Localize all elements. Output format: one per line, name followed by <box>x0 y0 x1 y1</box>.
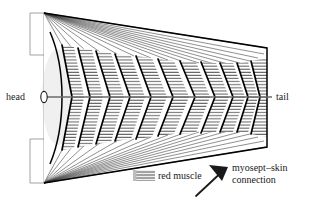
figure-canvas: head tail red muscle myosept–skin connec… <box>0 0 315 207</box>
ellipse-marker-icon <box>41 91 47 102</box>
legend-label-red-muscle: red muscle <box>158 170 202 182</box>
legend-label-myosept-skin: myosept–skin connection <box>232 162 312 185</box>
label-tail: tail <box>276 91 289 103</box>
label-head: head <box>6 91 25 103</box>
hatch-swatch-icon <box>133 170 155 181</box>
